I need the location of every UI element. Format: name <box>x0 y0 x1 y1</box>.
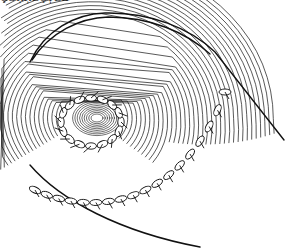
outer-silhouette <box>30 13 284 247</box>
concentric-hatching <box>0 0 274 169</box>
stoma-illustration <box>0 0 293 252</box>
